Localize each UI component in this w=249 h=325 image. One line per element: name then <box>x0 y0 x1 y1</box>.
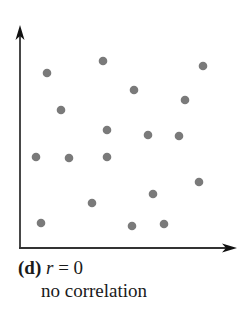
data-point <box>144 131 153 140</box>
data-point <box>32 153 41 162</box>
data-point <box>88 199 97 208</box>
data-point <box>103 153 112 162</box>
panel-label: (d) <box>18 257 41 278</box>
data-point <box>160 220 169 229</box>
axes <box>16 25 238 253</box>
data-point <box>199 62 208 71</box>
chart-caption: (d) r = 0 <box>18 257 83 279</box>
data-point <box>43 69 52 78</box>
data-point <box>37 219 46 228</box>
equals-sign: = <box>53 257 73 278</box>
data-point <box>195 178 204 187</box>
data-point <box>103 126 112 135</box>
data-point <box>99 57 108 66</box>
data-point <box>128 222 137 231</box>
data-point <box>181 96 190 105</box>
data-point <box>57 106 66 115</box>
chart-subtitle: no correlation <box>41 280 147 302</box>
data-point <box>149 190 158 199</box>
data-points <box>32 57 208 231</box>
data-point <box>130 86 139 95</box>
data-point <box>175 132 184 141</box>
data-point <box>65 154 74 163</box>
r-value: 0 <box>74 257 84 278</box>
